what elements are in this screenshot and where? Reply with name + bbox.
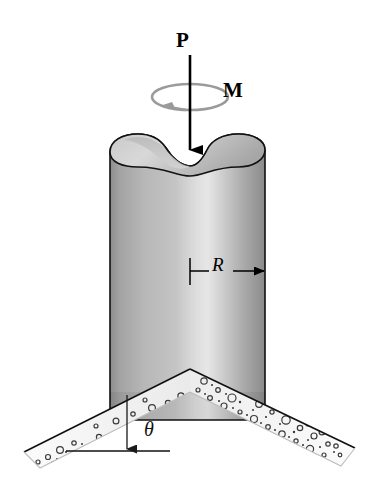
diagram-svg	[0, 0, 378, 484]
figure-canvas: P M R θ	[0, 0, 378, 484]
label-axial-load: P	[176, 30, 189, 51]
label-angle: θ	[144, 419, 154, 439]
label-radius: R	[212, 255, 224, 274]
label-moment: M	[223, 80, 243, 101]
